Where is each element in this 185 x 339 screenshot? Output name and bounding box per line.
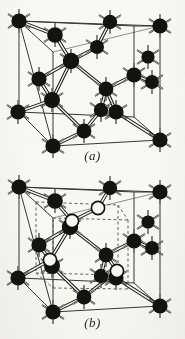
- atom-dark: [95, 77, 117, 101]
- atom-dark: [99, 10, 121, 34]
- panel-a-caption: (a): [0, 148, 185, 164]
- atom-dark: [137, 45, 159, 69]
- atom-open: [65, 214, 78, 227]
- atom-dark: [86, 35, 108, 59]
- panel-b-caption: (b): [0, 315, 185, 331]
- atom-open: [91, 201, 104, 214]
- atom-group-dark: [7, 9, 171, 158]
- atom-dark: [60, 49, 82, 73]
- atom-group-dark: [7, 175, 171, 324]
- atom-dark: [137, 210, 159, 234]
- panel-a-diamond-structure: [0, 0, 185, 170]
- panel-b-zincblende-structure: [0, 165, 185, 339]
- atom-dark: [99, 176, 121, 200]
- crystal-structure-figure: (a): [0, 0, 185, 339]
- atom-open: [43, 253, 56, 266]
- panel-b-canvas: [0, 165, 185, 339]
- atom-dark: [44, 23, 66, 47]
- panel-a-canvas: [0, 0, 185, 170]
- atom-dark: [28, 67, 50, 91]
- atom-dark: [105, 100, 127, 124]
- atom-open: [110, 264, 123, 277]
